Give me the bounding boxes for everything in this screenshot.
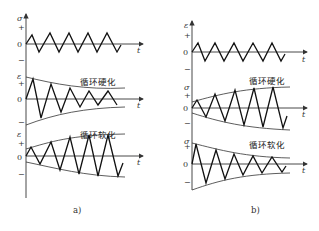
minus-sign: − <box>184 65 191 74</box>
zero-label: 0 <box>17 40 22 49</box>
panel-a-plot-cyclic-hardening: ε + 0 − t 循环硬化 <box>17 72 143 127</box>
x-axis-label: t <box>137 101 141 110</box>
cyclic-hardening-softening-diagram: σ + 0 − t ε + 0 − t 循环硬化 循环软化 ε + 0 <box>0 0 319 231</box>
panel-a-caption: a) <box>73 205 81 215</box>
zero-label: 0 <box>183 48 188 57</box>
panel-b-plot-cyclic-softening: σ + 0 − t 循环软化 <box>183 137 307 190</box>
panel-a: σ + 0 − t ε + 0 − t 循环硬化 循环软化 ε + 0 <box>17 14 143 215</box>
panel-b: ε + 0 − t 循环硬化 σ + 0 − t σ + 0 − <box>183 21 307 215</box>
panel-a-plot-stress-controlled: σ + 0 − t <box>17 14 143 65</box>
minus-sign: − <box>18 170 25 179</box>
plus-sign: + <box>184 142 191 151</box>
x-axis-label: t <box>137 158 141 167</box>
y-axis-label: σ <box>17 14 23 23</box>
panel-b-caption: b) <box>251 205 260 215</box>
annotation-cyclic-hardening: 循环硬化 <box>80 77 116 87</box>
plus-sign: + <box>184 31 191 40</box>
plus-sign: + <box>18 23 25 32</box>
zero-label: 0 <box>17 95 22 104</box>
panel-b-plot-strain-controlled: ε + 0 − t <box>183 21 307 74</box>
minus-sign: − <box>18 56 25 65</box>
lower-envelope <box>26 162 125 177</box>
plus-sign: + <box>18 79 25 88</box>
x-axis-label: t <box>137 46 141 55</box>
stress-wave <box>192 87 287 128</box>
stress-wave <box>26 33 121 52</box>
plus-sign: + <box>18 139 25 148</box>
panel-a-plot-cyclic-softening: 循环软化 ε + 0 − t <box>17 130 143 179</box>
zero-label: 0 <box>183 104 188 113</box>
strain-wave <box>26 135 123 176</box>
plus-sign: + <box>184 91 191 100</box>
zero-label: 0 <box>183 160 188 169</box>
minus-sign: − <box>184 119 191 128</box>
annotation-cyclic-softening: 循环软化 <box>249 140 285 150</box>
zero-label: 0 <box>17 153 22 162</box>
x-axis-label: t <box>302 110 306 119</box>
minus-sign: − <box>18 118 25 127</box>
panel-b-plot-cyclic-hardening: 循环硬化 σ + 0 − t <box>183 76 307 130</box>
x-axis-label: t <box>302 166 306 175</box>
y-axis-label: ε <box>17 130 21 139</box>
x-axis-label: t <box>302 55 306 64</box>
y-axis-label: ε <box>184 21 188 30</box>
annotation-cyclic-hardening: 循环硬化 <box>249 76 285 86</box>
minus-sign: − <box>184 178 191 187</box>
